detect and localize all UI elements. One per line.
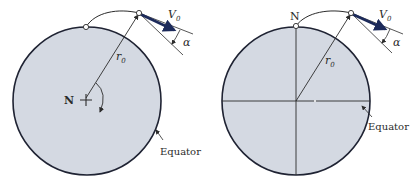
equator-pointer (156, 130, 163, 140)
pole-label: N (64, 94, 74, 107)
burnout-point (348, 10, 353, 15)
burnout-point (136, 10, 141, 15)
velocity-label: V0 (168, 8, 181, 23)
velocity-label: V0 (379, 8, 392, 23)
equator-label: Equator (368, 121, 409, 132)
trajectory-curve (86, 11, 139, 27)
right-figure: N r0 V0 α Equator (222, 8, 409, 175)
trajectory-curve (296, 11, 351, 26)
launch-point (83, 24, 88, 29)
left-figure: N r0 V0 α Equator (13, 8, 201, 175)
angle-label: α (183, 36, 191, 49)
equator-marker (314, 100, 316, 102)
equator-label: Equator (160, 146, 201, 157)
angle-arc (172, 30, 180, 44)
earth-disc-polar-view (13, 27, 161, 175)
angle-arc (382, 29, 390, 43)
angle-label: α (393, 36, 401, 49)
launch-point (293, 23, 298, 28)
pole-label: N (290, 10, 300, 23)
